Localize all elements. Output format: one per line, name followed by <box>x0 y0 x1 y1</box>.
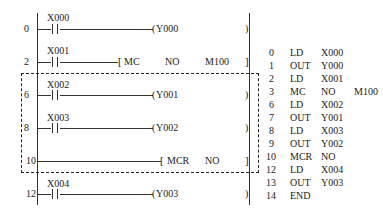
step-number: 2 <box>24 57 29 67</box>
operand-2: M100 <box>205 57 229 67</box>
no-contact-icon <box>50 123 60 133</box>
coil-open-icon: ( <box>152 90 155 100</box>
contact-label: X000 <box>47 13 69 23</box>
coil-label: Y003 <box>156 189 178 199</box>
step-number: 10 <box>26 156 36 166</box>
coil-open-icon: ( <box>152 189 155 199</box>
step-number: 6 <box>24 90 29 100</box>
step-number: 0 <box>24 24 29 34</box>
func-open-icon: [ <box>118 56 122 66</box>
contact-label: X004 <box>47 179 69 189</box>
instruction-label: MCR <box>167 156 189 166</box>
operand-1: NO <box>165 57 179 67</box>
contact-label: X003 <box>47 113 69 123</box>
no-contact-icon <box>50 189 60 199</box>
no-contact-icon <box>50 57 60 67</box>
operand-1: NO <box>205 156 219 166</box>
contact-label: X002 <box>47 80 69 90</box>
coil-close-icon: ) <box>245 189 248 199</box>
coil-open-icon: ( <box>152 24 155 34</box>
coil-open-icon: ( <box>152 123 155 133</box>
coil-close-icon: ) <box>245 123 248 133</box>
no-contact-icon <box>50 24 60 34</box>
coil-label: Y000 <box>156 24 178 34</box>
coil-close-icon: ) <box>245 90 248 100</box>
coil-label: Y001 <box>156 90 178 100</box>
instruction-label: MC <box>124 57 140 67</box>
contact-label: X001 <box>47 46 69 56</box>
no-contact-icon <box>50 90 60 100</box>
func-close-icon: ] <box>245 155 249 165</box>
func-open-icon: [ <box>160 155 164 165</box>
step-number: 12 <box>26 189 36 199</box>
coil-label: Y002 <box>156 123 178 133</box>
step-number: 8 <box>24 123 29 133</box>
coil-close-icon: ) <box>245 24 248 34</box>
func-close-icon: ] <box>245 56 249 66</box>
